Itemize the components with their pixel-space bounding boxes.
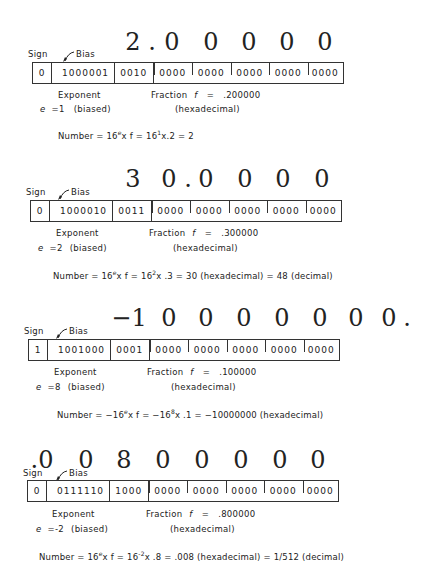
e-value: =1 <box>52 104 65 114</box>
biased-note: (biased) <box>74 104 111 114</box>
fraction-nibble: 0000 <box>188 340 227 360</box>
hex-note: (hexadecimal) <box>173 243 238 253</box>
exponent-label: Exponent <box>56 228 99 238</box>
fraction-nibble: 0000 <box>306 201 342 221</box>
fraction-nibble: 0000 <box>308 63 344 83</box>
digit: 0 <box>236 304 251 332</box>
exponent-bits: 1001000 <box>48 340 111 360</box>
bias-label: Bias <box>71 187 90 197</box>
sign-label: Sign <box>28 49 48 59</box>
fraction-symbol: f <box>189 509 192 519</box>
sign-bit: 0 <box>28 481 47 501</box>
digit: 0 <box>272 446 287 474</box>
digit: 0 <box>348 304 363 332</box>
hex-note: (hexadecimal) <box>175 104 240 114</box>
formula-part: x.2 = 2 <box>161 131 193 141</box>
exponent-label: Exponent <box>54 367 97 377</box>
equals-sign: = <box>207 90 214 100</box>
fraction-nibble: 0001 <box>111 340 150 360</box>
fraction-nibble: 1000 <box>110 481 149 501</box>
number-formula: Number = 16ex f = 162x .3 = 30 (hexadeci… <box>53 269 333 281</box>
formula-part: x .1 = −10000000 (hexadecimal) <box>175 410 323 420</box>
fraction-value: .300000 <box>221 228 258 238</box>
e-symbol: e <box>36 524 42 534</box>
digit: 0 <box>381 304 396 332</box>
exponent-label: Exponent <box>52 509 95 519</box>
fraction-nibble: 0000 <box>303 481 339 501</box>
digit: 0 <box>274 304 289 332</box>
digit: 0 <box>317 28 332 56</box>
number-formula: Number = 16ex f = 16-2x .8 = .008 (hexad… <box>39 550 344 562</box>
digit: 0 <box>279 28 294 56</box>
equals-sign: = <box>202 509 209 519</box>
fraction-value: .200000 <box>223 90 260 100</box>
equals-sign: = <box>205 228 212 238</box>
biased-note: (biased) <box>71 524 108 534</box>
fraction-nibble: 0000 <box>231 63 270 83</box>
fraction-prefix: Fraction <box>146 509 182 519</box>
formula-part: Number = 16 <box>39 552 99 562</box>
fraction-prefix: Fraction <box>149 228 185 238</box>
formula-part: x .3 = 30 (hexadecimal) = 48 (decimal) <box>156 271 333 281</box>
fraction-nibble: 0000 <box>304 340 340 360</box>
fraction-nibble: 0011 <box>113 201 152 221</box>
exponent-value: e =8 (biased) <box>36 382 105 392</box>
digit: . <box>148 28 156 56</box>
digit: 0 <box>155 446 170 474</box>
digit: 0 <box>310 446 325 474</box>
fraction-nibble: 0000 <box>269 63 308 83</box>
exponent-value: e =1 (biased) <box>40 104 111 114</box>
digit: 0 <box>314 165 329 193</box>
fraction-nibble: 0000 <box>192 63 231 83</box>
fraction-nibble: 0000 <box>149 481 188 501</box>
digit: . <box>403 304 411 332</box>
digit: 0 <box>194 446 209 474</box>
e-value: =8 <box>48 382 61 392</box>
exponent-bits: 1000010 <box>50 201 113 221</box>
biased-note: (biased) <box>68 382 105 392</box>
fraction-nibble: 0000 <box>190 201 229 221</box>
fraction-value: .100000 <box>219 367 256 377</box>
register-word: 1 1001000 0001 0000 0000 0000 0000 0000 <box>28 339 340 361</box>
sign-bit: 0 <box>31 201 50 221</box>
formula-part: Number = −16 <box>57 410 124 420</box>
exponent-label: Exponent <box>58 90 101 100</box>
digit: 0 <box>237 165 252 193</box>
digit: . <box>184 165 192 193</box>
digit: 3 <box>125 165 140 193</box>
fraction-nibble: 0000 <box>267 201 306 221</box>
e-symbol: e <box>38 243 44 253</box>
digit: 0 <box>164 28 179 56</box>
hex-note: (hexadecimal) <box>171 382 236 392</box>
fraction-label: Fraction f = .800000 <box>146 509 255 519</box>
digit: 0 <box>241 28 256 56</box>
digit: 2 <box>125 28 140 56</box>
bias-label: Bias <box>69 468 88 478</box>
digit: 0 <box>161 304 176 332</box>
sign-label: Sign <box>24 326 44 336</box>
formula-part: x f = 16 <box>122 131 158 141</box>
number-formula: Number = 16ex f = 161x.2 = 2 <box>58 129 194 141</box>
exponent-value: e =2 (biased) <box>38 243 107 253</box>
exponent-bits: 1000001 <box>52 63 115 83</box>
exponent-value: e =-2 (biased) <box>36 524 108 534</box>
sign-bit: 0 <box>33 63 52 83</box>
digit: 0 <box>275 165 290 193</box>
equals-sign: = <box>203 367 210 377</box>
e-value: =2 <box>50 243 63 253</box>
formula-part: x f = 16 <box>117 271 153 281</box>
digit: 0 <box>233 446 248 474</box>
fraction-nibble: 0000 <box>152 201 191 221</box>
exponent-bits: 0111110 <box>47 481 110 501</box>
fraction-label: Fraction f = .100000 <box>147 367 256 377</box>
biased-note: (biased) <box>70 243 107 253</box>
fraction-nibble: 0000 <box>264 481 303 501</box>
digit: 0 <box>198 304 213 332</box>
fraction-nibble: 0000 <box>229 201 268 221</box>
register-word: 0 1000010 0011 0000 0000 0000 0000 0000 <box>30 200 342 222</box>
register-word: 0 1000001 0010 0000 0000 0000 0000 0000 <box>32 62 344 84</box>
fraction-symbol: f <box>190 367 193 377</box>
e-value: =-2 <box>48 524 65 534</box>
fraction-label: Fraction f = .300000 <box>149 228 258 238</box>
formula-part: x .8 = .008 (hexadecimal) = 1/512 (decim… <box>145 552 344 562</box>
